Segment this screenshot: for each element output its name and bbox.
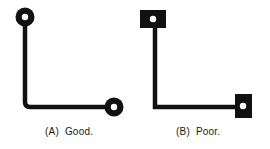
trace-b <box>155 26 236 107</box>
panel-a-good-trace <box>16 8 124 117</box>
panel-b-poor-trace <box>140 10 252 118</box>
pad-hole-bottom-b <box>240 103 246 109</box>
trace-a <box>25 22 110 107</box>
caption-panel-a: (A) Good. <box>45 126 93 137</box>
pad-hole-top-b <box>150 16 156 22</box>
pad-hole-top-a <box>22 14 28 20</box>
pcb-trace-diagram <box>0 0 270 149</box>
pad-hole-bottom-a <box>111 104 117 110</box>
caption-panel-b: (B) Poor. <box>176 126 220 137</box>
